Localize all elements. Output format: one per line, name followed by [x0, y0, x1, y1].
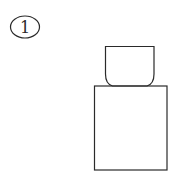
figure-number: 1	[20, 18, 30, 37]
bottle-body	[95, 86, 168, 170]
figure-number-badge: 1	[11, 16, 40, 38]
bottle-cap	[106, 47, 155, 87]
diagram-canvas: 1	[0, 0, 193, 180]
